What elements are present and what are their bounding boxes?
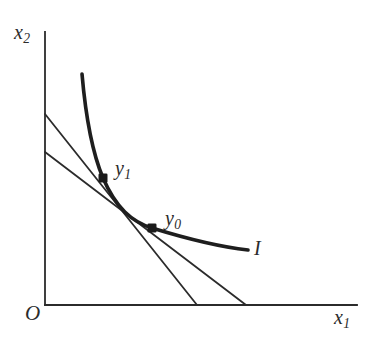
y-axis-label: x2 [14,22,30,42]
point-label-y0-subscript: 0 [174,217,181,232]
indifference-curve-label: I [254,238,261,258]
figure-canvas [0,0,374,352]
economics-indifference-curve-figure: x2 x1 O y1 y0 I [0,0,374,352]
point-label-y0: y0 [165,208,181,228]
point-marker-y0 [148,224,157,233]
point-marker-y1 [99,174,108,183]
x-axis-label: x1 [334,307,350,327]
point-label-y1-subscript: 1 [124,167,131,182]
budget-line-flat [45,152,246,305]
origin-label: O [25,303,40,324]
x-axis-label-subscript: 1 [343,316,350,331]
y-axis-label-subscript: 2 [23,31,30,46]
point-label-y0-base: y [165,207,174,229]
point-label-y1-base: y [115,157,124,179]
point-label-y1: y1 [115,158,131,178]
x-axis-label-base: x [334,306,343,328]
y-axis-label-base: x [14,21,23,43]
